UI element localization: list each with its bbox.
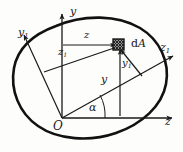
axis-label-z1: z1 bbox=[160, 42, 170, 53]
element-label-dA-prefix: d bbox=[131, 37, 138, 50]
dimension-label-z1-sub: 1 bbox=[63, 51, 67, 58]
diagram-canvas bbox=[0, 0, 183, 152]
element-dA-square bbox=[113, 39, 124, 50]
origin-label: O bbox=[53, 120, 63, 132]
dimension-label-y1-sub: 1 bbox=[128, 62, 132, 69]
figure-container: y y1 z z1 z z1 y y1 dA α O bbox=[0, 0, 183, 152]
dimension-label-z: z bbox=[84, 30, 89, 40]
dimension-z1-line bbox=[44, 47, 117, 72]
axis-z1-line bbox=[62, 56, 173, 118]
angle-alpha-arc bbox=[100, 95, 105, 118]
dimension-label-y1: y1 bbox=[122, 58, 132, 68]
dimension-label-y1-base: y bbox=[122, 57, 128, 68]
axis-label-y: y bbox=[70, 6, 76, 17]
axis-label-z1-sub: 1 bbox=[166, 47, 170, 55]
dimension-label-y: y bbox=[101, 74, 107, 85]
element-label-dA-italic: A bbox=[138, 37, 146, 50]
axis-label-z: z bbox=[165, 116, 171, 127]
axis-label-z1-base: z bbox=[160, 41, 166, 54]
axis-label-y1-sub: 1 bbox=[24, 32, 28, 40]
axis-label-y1: y1 bbox=[18, 27, 29, 38]
angle-label-alpha: α bbox=[89, 102, 96, 113]
axis-y1-line bbox=[24, 35, 62, 118]
element-label-dA: dA bbox=[131, 38, 146, 49]
cross-section-outline bbox=[13, 18, 167, 139]
dimension-label-z1: z1 bbox=[58, 47, 67, 57]
